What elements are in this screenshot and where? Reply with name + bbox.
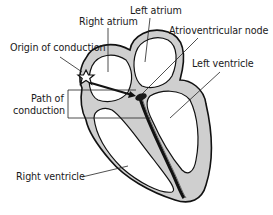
- leader-origin: [60, 57, 82, 72]
- label-origin-of-conduction: Origin of conduction: [10, 42, 105, 53]
- right-atrium-chamber: [89, 55, 132, 101]
- label-path-of-conduction-line1: Path of: [31, 93, 64, 104]
- label-left-atrium: Left atrium: [130, 5, 182, 16]
- label-left-ventricle: Left ventricle: [192, 58, 254, 69]
- label-path-of-conduction-line2: conduction: [13, 105, 65, 116]
- label-atrioventricular-node: Atrioventricular node: [169, 25, 268, 36]
- label-right-ventricle: Right ventricle: [16, 171, 85, 182]
- label-right-atrium: Right atrium: [79, 16, 138, 27]
